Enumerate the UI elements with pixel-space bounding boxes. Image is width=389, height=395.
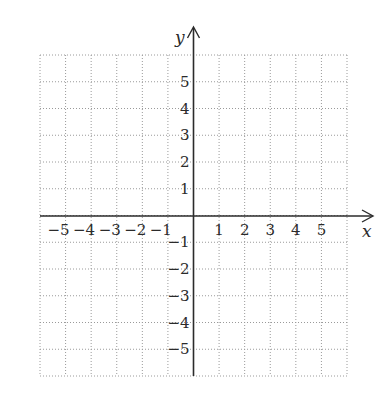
y-tick-label: −1 xyxy=(167,233,189,251)
y-tick-label: −2 xyxy=(167,260,189,278)
y-tick-label: −3 xyxy=(167,287,189,305)
axes xyxy=(40,27,373,376)
y-tick-label: 5 xyxy=(180,73,190,91)
x-tick-label: 1 xyxy=(214,221,224,239)
y-tick-label: −4 xyxy=(167,314,189,332)
y-tick-label: 1 xyxy=(180,180,190,198)
x-tick-label: 5 xyxy=(317,221,327,239)
x-tick-label: 3 xyxy=(265,221,275,239)
y-tick-label: 4 xyxy=(180,100,190,118)
y-tick-label: −5 xyxy=(167,340,189,358)
x-tick-label: −2 xyxy=(124,221,146,239)
y-axis-label: y xyxy=(174,27,185,47)
x-tick-label: −4 xyxy=(73,221,95,239)
x-tick-label: 2 xyxy=(240,221,250,239)
x-tick-label: 4 xyxy=(291,221,301,239)
x-tick-label: −3 xyxy=(99,221,121,239)
coordinate-plane: x y −5−4−3−2−112345 54321−1−2−3−4−5 xyxy=(0,0,389,395)
x-tick-label: −5 xyxy=(47,221,69,239)
y-tick-label: 2 xyxy=(180,153,190,171)
y-tick-label: 3 xyxy=(180,126,190,144)
x-axis-label: x xyxy=(362,221,372,241)
